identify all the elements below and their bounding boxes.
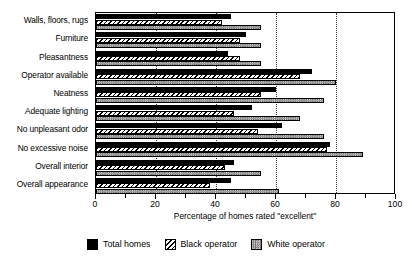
bar [96, 142, 330, 147]
bar [96, 129, 258, 134]
plot-area [95, 12, 395, 194]
bar-group [96, 31, 394, 49]
x-axis-tick-label: 40 [210, 199, 220, 209]
x-axis-tick [365, 194, 366, 198]
bar [96, 14, 231, 19]
legend-entry: White operator [251, 239, 325, 250]
category-axis-labels: Walls, floors, rugsFurniturePleasantness… [0, 12, 92, 194]
chart-legend: Total homesBlack operatorWhite operator [0, 236, 412, 252]
category-label: Neatness [0, 89, 88, 98]
bar-group [96, 159, 394, 177]
x-axis-tick-label: 100 [388, 199, 402, 209]
bar [96, 69, 312, 74]
category-label: Operator available [0, 71, 88, 80]
x-axis-tick-label: 80 [330, 199, 340, 209]
legend-label: Total homes [103, 239, 150, 249]
bar-group [96, 49, 394, 67]
bar [96, 134, 324, 139]
bar [96, 51, 228, 56]
legend-label: Black operator [181, 239, 238, 249]
x-axis-tick-labels: 020406080100 [95, 199, 395, 211]
category-label: No unpleasant odor [0, 125, 88, 134]
bar [96, 32, 246, 37]
category-label: Overall appearance [0, 180, 88, 189]
bar-group [96, 104, 394, 122]
diagonal-hatch-swatch [165, 239, 176, 250]
x-axis-title: Percentage of homes rated "excellent" [95, 211, 395, 221]
bar-group [96, 68, 394, 86]
legend-entry: Total homes [87, 239, 150, 250]
x-axis-tick [305, 194, 306, 198]
category-label: Pleasantness [0, 53, 88, 62]
bar [96, 178, 231, 183]
bar [96, 98, 324, 103]
category-label: No excessive noise [0, 144, 88, 153]
x-axis-tick [185, 194, 186, 198]
bar [96, 56, 240, 61]
bar [96, 116, 300, 121]
category-label: Walls, floors, rugs [0, 16, 88, 25]
bar-chart: Walls, floors, rugsFurniturePleasantness… [0, 0, 412, 262]
bar [96, 87, 276, 92]
x-axis-tick-label: 0 [93, 199, 98, 209]
bar-group [96, 140, 394, 158]
bar-group [96, 13, 394, 31]
x-axis-tick [245, 194, 246, 198]
bar [96, 111, 234, 116]
bar [96, 92, 261, 97]
bar [96, 80, 336, 85]
bar [96, 43, 261, 48]
bar [96, 160, 234, 165]
bar-group [96, 122, 394, 140]
category-label: Adequate lighting [0, 107, 88, 116]
bar [96, 105, 252, 110]
bar [96, 38, 240, 43]
legend-entry: Black operator [165, 239, 238, 250]
bar [96, 171, 261, 176]
bar-group [96, 86, 394, 104]
bar [96, 25, 261, 30]
stipple-gray-swatch [251, 239, 262, 250]
legend-label: White operator [267, 239, 325, 249]
bar [96, 20, 222, 25]
category-label: Furniture [0, 34, 88, 43]
bar [96, 147, 327, 152]
x-axis-tick-label: 60 [270, 199, 280, 209]
bar [96, 61, 261, 66]
category-label: Overall interior [0, 162, 88, 171]
bar [96, 152, 363, 157]
x-axis-tick-label: 20 [150, 199, 160, 209]
bar [96, 165, 225, 170]
bar-group [96, 177, 394, 194]
x-axis-tick [125, 194, 126, 198]
bar [96, 183, 210, 188]
bar [96, 74, 300, 79]
solid-black-swatch [87, 239, 98, 250]
bar [96, 123, 282, 128]
